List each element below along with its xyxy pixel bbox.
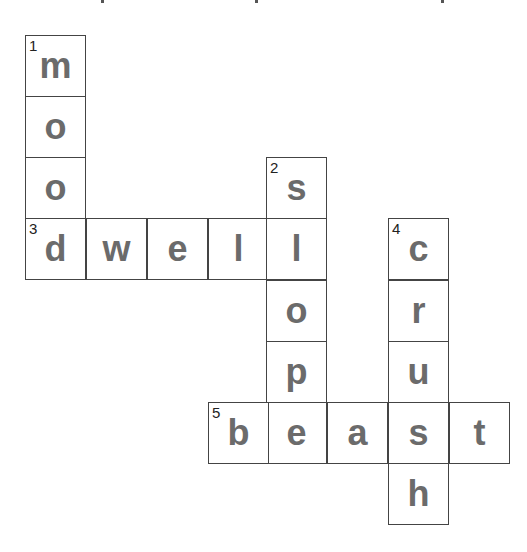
cell-letter: s — [267, 166, 326, 210]
cell-letter: o — [267, 289, 326, 333]
cell-letter: o — [26, 166, 85, 210]
crossword-cell[interactable]: a — [327, 402, 388, 464]
crossword-cell[interactable]: l — [266, 218, 327, 280]
cell-letter: l — [209, 227, 268, 271]
cell-letter: o — [26, 105, 85, 149]
crossword-cell[interactable]: 4c — [388, 218, 449, 280]
cut-off-header-text — [0, 0, 527, 4]
cell-letter: a — [328, 411, 387, 455]
text-fragment — [255, 0, 258, 3]
crossword-cell[interactable]: e — [266, 402, 327, 464]
crossword-cell[interactable]: p — [266, 341, 327, 403]
crossword-cell[interactable]: s — [388, 402, 449, 464]
crossword-cell[interactable]: 5b — [208, 402, 269, 464]
crossword-cell[interactable]: r — [388, 280, 449, 342]
text-fragment — [441, 0, 444, 3]
crossword-cell[interactable]: e — [147, 218, 208, 280]
cell-letter: p — [267, 350, 326, 394]
cell-letter: c — [389, 227, 448, 271]
crossword-cell[interactable]: h — [388, 463, 449, 525]
crossword-cell[interactable]: 2s — [266, 157, 327, 219]
text-fragment — [101, 0, 104, 3]
crossword-cell[interactable]: o — [266, 280, 327, 342]
cell-letter: w — [87, 227, 146, 271]
crossword-cell[interactable]: l — [208, 218, 269, 280]
cell-letter: r — [389, 289, 448, 333]
cell-letter: d — [26, 227, 85, 271]
crossword-cell[interactable]: t — [449, 402, 510, 464]
cell-letter: s — [389, 411, 448, 455]
cell-letter: t — [450, 411, 509, 455]
crossword-cell[interactable]: u — [388, 341, 449, 403]
crossword-cell[interactable]: o — [25, 96, 86, 158]
cell-letter: m — [26, 44, 85, 88]
crossword-cell[interactable]: 3d — [25, 218, 86, 280]
cell-letter: u — [389, 350, 448, 394]
crossword-cell[interactable]: 1m — [25, 35, 86, 97]
crossword-cell[interactable]: w — [86, 218, 147, 280]
cell-letter: b — [209, 411, 268, 455]
crossword-cell[interactable]: o — [25, 157, 86, 219]
cell-letter: e — [148, 227, 207, 271]
cell-letter: e — [267, 411, 326, 455]
cell-letter: l — [267, 227, 326, 271]
cell-letter: h — [389, 472, 448, 516]
